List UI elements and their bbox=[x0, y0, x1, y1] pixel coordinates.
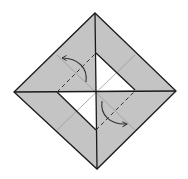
origami-diagram bbox=[0, 0, 188, 179]
